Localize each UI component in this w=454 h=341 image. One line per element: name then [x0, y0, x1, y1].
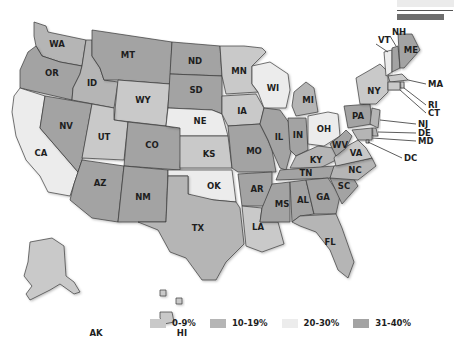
legend-item-0-9: 0-9% [150, 318, 196, 328]
state-label-ct: CT [428, 108, 440, 118]
state-label-mo: MO [246, 146, 262, 156]
legend-item-10-19: 10-19% [210, 318, 268, 328]
state-label-hi: HI [177, 328, 187, 338]
state-label-md: MD [418, 136, 434, 146]
state-label-dc: DC [404, 153, 417, 163]
legend-item-20-30: 20-30% [282, 318, 340, 328]
state-label-nd: ND [188, 56, 202, 66]
legend-label: 20-30% [304, 318, 340, 328]
state-label-wy: WY [135, 95, 151, 105]
state-nj [370, 108, 380, 128]
state-label-ky: KY [310, 155, 324, 165]
state-label-ia: IA [237, 106, 247, 116]
state-label-mn: MN [231, 66, 247, 76]
state-label-ms: MS [275, 199, 290, 209]
state-label-ak: AK [89, 328, 103, 338]
state-label-ca: CA [35, 148, 48, 158]
state-label-tn: TN [300, 168, 313, 178]
state-label-co: CO [145, 140, 158, 150]
state-label-wv: WV [332, 140, 348, 150]
legend-label: 31-40% [375, 318, 411, 328]
state-de [372, 128, 378, 136]
state-label-va: VA [350, 148, 363, 158]
legend-swatch [210, 319, 226, 328]
legend-swatch [150, 319, 166, 328]
leader-line-nh [390, 36, 396, 46]
legend-swatch [353, 319, 369, 328]
leader-line-de [378, 132, 416, 133]
state-label-ga: GA [316, 192, 330, 202]
state-label-nh: NH [392, 27, 406, 37]
state-label-ok: OK [207, 181, 221, 191]
leader-line-dc [368, 142, 402, 158]
state-md [352, 128, 372, 140]
state-label-ma: MA [428, 79, 443, 89]
state-label-ne: NE [194, 116, 207, 126]
state-label-pa: PA [352, 111, 364, 121]
leader-line-vt [376, 44, 388, 52]
state-label-al: AL [297, 195, 310, 205]
state-label-or: OR [45, 68, 59, 78]
state-label-vt: VT [378, 35, 391, 45]
state-fl [292, 214, 354, 278]
state-ma [388, 74, 408, 82]
state-label-az: AZ [94, 178, 107, 188]
state-label-ny: NY [367, 86, 381, 96]
state-label-fl: FL [324, 237, 336, 247]
state-label-nc: NC [348, 165, 361, 175]
state-label-wi: WI [267, 83, 280, 93]
state-label-tx: TX [192, 223, 205, 233]
state-label-ut: UT [98, 132, 111, 142]
state-ri [400, 82, 404, 88]
state-label-in: IN [293, 130, 303, 140]
state-label-oh: OH [317, 124, 331, 134]
state-label-il: IL [275, 132, 284, 142]
state-ct [388, 82, 400, 90]
state-label-wa: WA [49, 39, 65, 49]
legend-label: 10-19% [232, 318, 268, 328]
leader-line-ma [408, 80, 426, 84]
state-label-ks: KS [203, 149, 216, 159]
state-label-me: ME [404, 45, 418, 55]
legend-label: 0-9% [172, 318, 196, 328]
state-label-sd: SD [189, 85, 202, 95]
state-label-sc: SC [338, 181, 350, 191]
legend-item-31-40: 31-40% [353, 318, 411, 328]
state-label-id: ID [87, 78, 97, 88]
state-label-nm: NM [135, 192, 151, 202]
state-label-mi: MI [302, 95, 314, 105]
map-legend: 0-9% 10-19% 20-30% 31-40% [150, 318, 425, 328]
state-ny [356, 64, 388, 104]
legend-swatch [282, 319, 298, 328]
state-label-nv: NV [59, 121, 73, 131]
state-ak [24, 238, 80, 300]
leader-line-nj [380, 120, 416, 124]
state-label-ar: AR [250, 184, 264, 194]
state-label-mt: MT [121, 50, 135, 60]
state-label-la: LA [252, 222, 264, 232]
leader-line-md [372, 138, 416, 141]
